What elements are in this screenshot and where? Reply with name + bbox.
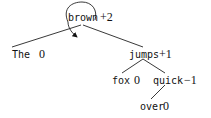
node-score: −1: [184, 73, 197, 87]
node-word: jumps: [129, 49, 159, 60]
node-score: 0: [163, 99, 169, 113]
edge-brown-jumps: [83, 25, 143, 47]
node-fox: fox 0: [112, 73, 140, 87]
node-brown: brown +2: [68, 10, 113, 24]
node-the: The 0: [12, 47, 45, 61]
node-score: 0: [39, 47, 45, 61]
dependency-tree-diagram: brown +2 The 0 jumps +1 fox 0 quick −1 o…: [0, 0, 211, 118]
node-word: over: [140, 101, 164, 112]
node-word: fox: [112, 75, 130, 86]
node-word: brown: [68, 12, 98, 23]
node-score: +1: [159, 47, 172, 61]
node-quick: quick −1: [153, 73, 197, 87]
edge-quick-over: [151, 85, 165, 99]
edge-jumps-quick: [143, 59, 165, 73]
node-score: +2: [100, 10, 113, 24]
tree-canvas: brown +2 The 0 jumps +1 fox 0 quick −1 o…: [0, 0, 211, 118]
node-word: The: [12, 49, 30, 60]
self-loop-tail: [68, 22, 77, 37]
edge-brown-the: [12, 25, 81, 47]
node-jumps: jumps +1: [129, 47, 172, 61]
node-over: over 0: [140, 99, 169, 113]
node-score: 0: [134, 73, 140, 87]
node-word: quick: [153, 75, 183, 86]
edge-jumps-fox: [122, 59, 143, 73]
